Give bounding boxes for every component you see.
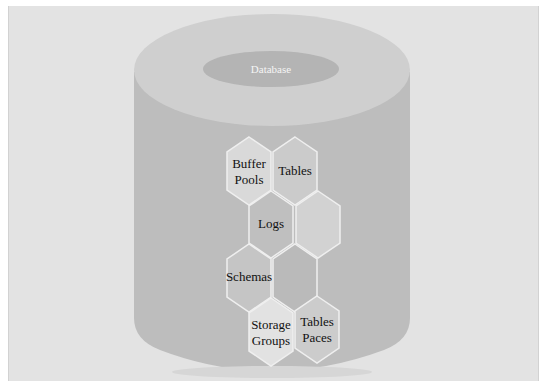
hex-label: Storage [251, 317, 291, 332]
hex-storage-groups: Storage Groups [249, 298, 293, 366]
hex-label: Pools [235, 172, 264, 187]
hex-label: Buffer [232, 156, 266, 171]
hex-tables-paces: Tables Paces [295, 296, 339, 363]
hex-label: Groups [252, 333, 290, 348]
hex-label: Schemas [226, 269, 272, 284]
database-title: Database [251, 63, 291, 75]
database-diagram: Database Buffer Pools Tables Logs Schema… [0, 0, 541, 387]
hex-label: Tables [278, 163, 312, 178]
hex-label: Paces [302, 330, 332, 345]
hex-tables: Tables [273, 137, 317, 205]
hex-label: Tables [300, 314, 334, 329]
hex-label: Logs [258, 216, 284, 231]
cylinder-shadow [172, 366, 372, 378]
hex-empty-1 [296, 191, 340, 258]
